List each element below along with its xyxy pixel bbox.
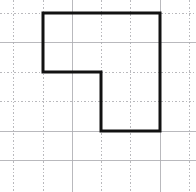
- grid-figure-svg: Notched rectangle outlined on dotted gri…: [0, 0, 196, 192]
- figure-background: [0, 0, 196, 192]
- grid-figure-container: Notched rectangle outlined on dotted gri…: [0, 0, 196, 192]
